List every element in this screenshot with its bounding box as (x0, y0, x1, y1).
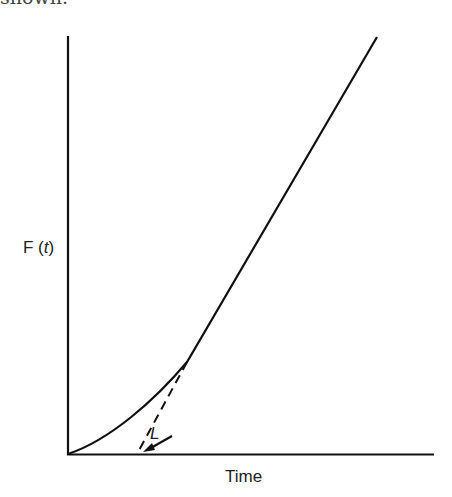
dashed-extrapolation-line (137, 362, 187, 454)
arrow-head-icon (143, 443, 155, 452)
diagram-canvas (0, 0, 452, 497)
y-axis-label: F (t) (23, 238, 54, 258)
lag-label: L (150, 424, 159, 444)
f-t-curve (68, 37, 377, 454)
x-axis-label: Time (225, 467, 262, 487)
